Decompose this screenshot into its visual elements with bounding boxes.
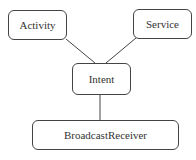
edge-activity-intent [66, 39, 95, 63]
node-label: Service [146, 18, 179, 30]
node-broadcastreceiver: BroadcastReceiver [32, 120, 179, 150]
node-service: Service [133, 9, 192, 39]
edge-service-intent [106, 38, 136, 63]
node-label: Activity [19, 19, 55, 31]
node-activity: Activity [8, 10, 67, 40]
node-label: Intent [89, 73, 115, 85]
node-label: BroadcastReceiver [64, 129, 147, 141]
diagram-canvas: Activity Service Intent BroadcastReceive… [0, 0, 196, 160]
node-intent: Intent [72, 63, 131, 95]
